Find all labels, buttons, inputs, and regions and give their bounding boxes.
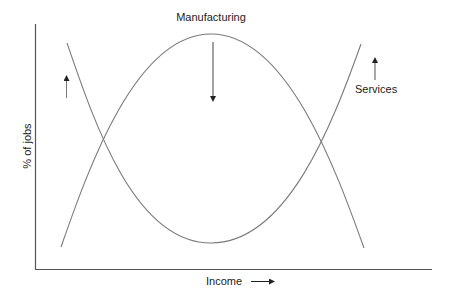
- diagram-canvas: [0, 0, 449, 300]
- services-curve: [67, 43, 361, 243]
- manufacturing-label: Manufacturing: [176, 12, 246, 23]
- services-label: Services: [355, 84, 397, 95]
- y-axis-label: % of jobs: [22, 123, 33, 168]
- x-axis-label: Income: [206, 276, 242, 287]
